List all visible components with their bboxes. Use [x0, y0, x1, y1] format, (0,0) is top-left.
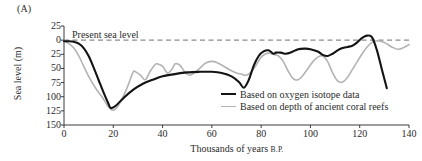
legend-swatch-line-icon	[221, 106, 236, 107]
legend-label: Based on depth of ancient coral reefs	[240, 101, 388, 112]
legend-item: Based on depth of ancient coral reefs	[221, 100, 411, 112]
x-tick-label: 40	[148, 129, 178, 139]
legend-label: Based on oxygen isotope data	[240, 89, 359, 100]
x-tick-label: 80	[246, 129, 276, 139]
x-tick-label: 120	[345, 129, 375, 139]
x-tick-label: 100	[295, 129, 325, 139]
annotation-present-sea-level: Present sea level	[72, 29, 139, 40]
figure-panel-a: (A) Sea level (m) Thousands of years B.P…	[0, 0, 422, 161]
legend-item: Based on oxygen isotope data	[221, 88, 411, 100]
x-tick-label: 140	[394, 129, 422, 139]
legend: Based on oxygen isotope dataBased on dep…	[221, 88, 411, 112]
legend-swatch-line-icon	[221, 93, 236, 95]
x-tick-label: 0	[49, 129, 79, 139]
x-tick-label-group: 020406080100120140	[0, 0, 422, 161]
x-tick-label: 20	[98, 129, 128, 139]
x-tick-label: 60	[197, 129, 227, 139]
